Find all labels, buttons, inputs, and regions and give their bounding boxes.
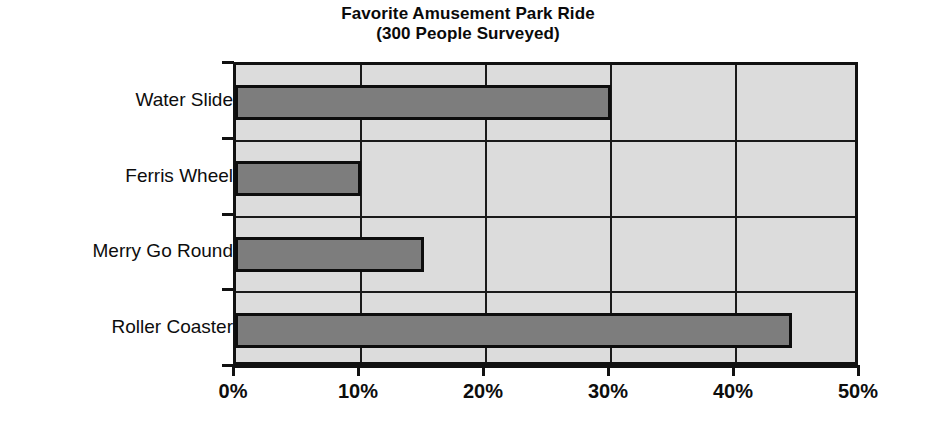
chart-subtitle: (300 People Surveyed) xyxy=(0,24,936,44)
y-axis-label-roller-coaster: Roller Coaster xyxy=(112,316,233,338)
y-axis-tick xyxy=(222,61,234,64)
y-axis-label-merry-go-round: Merry Go Round xyxy=(93,240,233,262)
chart-title-block: Favorite Amusement Park Ride (300 People… xyxy=(0,4,936,44)
x-axis-tick-label: 30% xyxy=(588,380,628,403)
x-axis-tick xyxy=(482,365,485,376)
x-axis-tick xyxy=(232,365,235,376)
bar-chart-figure: Favorite Amusement Park Ride (300 People… xyxy=(0,0,936,442)
x-axis-line xyxy=(233,365,858,368)
y-axis-label-ferris-wheel: Ferris Wheel xyxy=(125,165,233,187)
x-axis-tick-label: 0% xyxy=(219,380,248,403)
y-axis-category-labels: Water SlideFerris WheelMerry Go RoundRol… xyxy=(0,62,936,365)
x-axis-tick-label: 40% xyxy=(713,380,753,403)
x-axis-tick-label: 10% xyxy=(338,380,378,403)
x-axis-tick xyxy=(857,365,860,376)
y-axis-label-water-slide: Water Slide xyxy=(136,89,234,111)
y-axis-tick xyxy=(222,213,234,216)
y-axis-tick xyxy=(222,288,234,291)
y-axis-tick xyxy=(222,137,234,140)
x-axis-tick-label: 50% xyxy=(838,380,878,403)
x-axis-tick xyxy=(732,365,735,376)
x-axis-tick xyxy=(607,365,610,376)
page-title: Favorite Amusement Park Ride xyxy=(0,4,936,24)
x-axis-tick xyxy=(357,365,360,376)
x-axis-tick-label: 20% xyxy=(463,380,503,403)
